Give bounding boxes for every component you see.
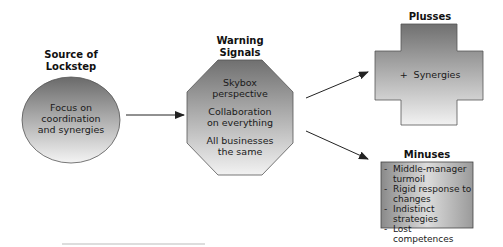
bullet-dash: - [384,224,387,234]
warning-item-1-line2: perspective [190,88,290,99]
warning-title-line1: Warning [200,35,280,47]
warning-item-1-line1: Skybox [190,77,290,88]
warning-item-2-line2: on everything [190,117,290,128]
source-body: Focus on coordination and synergies [26,102,116,135]
warning-item-2: Collaboration on everything [190,106,290,128]
warning-item-3: All businesses the same [190,135,290,157]
minuses-item-4-line1: Lost competences [393,224,474,244]
minuses-item-1-line1: Middle-manager [393,164,474,174]
minuses-item-3-line1: Indistinct strategies [393,204,474,224]
minuses-item: -Rigid response tochanges [382,184,474,204]
minuses-list: -Middle-managerturmoil -Rigid response t… [382,164,474,244]
warning-title: Warning Signals [200,35,280,59]
minuses-item-1-line2: turmoil [393,174,474,184]
plusses-item: + Synergies [395,69,465,80]
arrow-warning-to-plusses [306,72,368,98]
source-title-line2: Lockstep [31,61,111,73]
minuses-item-2-line2: changes [393,194,474,204]
warning-item-3-line1: All businesses [190,135,290,146]
minuses-item: -Middle-managerturmoil [382,164,474,184]
source-title: Source of Lockstep [31,49,111,73]
minuses-title: Minuses [392,149,462,161]
bullet-dash: - [384,184,387,194]
minuses-item: -Lost competences [382,224,474,244]
source-body-line3: and synergies [26,124,116,135]
source-body-line2: coordination [26,113,116,124]
warning-item-1: Skybox perspective [190,77,290,99]
source-body-line1: Focus on [26,102,116,113]
warning-item-3-line2: the same [190,146,290,157]
source-title-line1: Source of [31,49,111,61]
minuses-item: -Indistinct strategies [382,204,474,224]
bullet-dash: - [384,164,387,174]
warning-title-line2: Signals [200,47,280,59]
warning-item-2-line1: Collaboration [190,106,290,117]
minuses-item-2-line1: Rigid response to [393,184,474,194]
bullet-dash: - [384,204,387,214]
arrow-warning-to-minuses [306,131,368,159]
plusses-title: Plusses [395,11,465,23]
